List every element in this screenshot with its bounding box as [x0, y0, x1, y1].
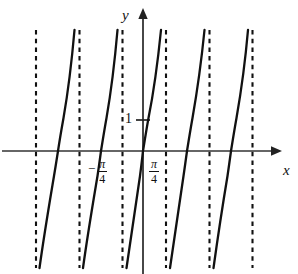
fraction-pi-over-4: π4: [97, 158, 107, 186]
y-axis-label: y: [122, 8, 129, 23]
curve-branch-1: [40, 30, 75, 268]
x-tick-label-negative-pi-over-4: −π4: [88, 158, 107, 186]
fraction-pi-over-4: π4: [149, 158, 159, 186]
minus-sign: −: [88, 162, 95, 175]
curve-branch-4: [170, 30, 205, 268]
fraction-denominator: 4: [149, 172, 159, 187]
curve-branch-5: [214, 30, 249, 268]
y-axis-arrowhead: [138, 8, 147, 19]
fraction-denominator: 4: [97, 172, 107, 187]
y-tick-label-one: 1: [125, 112, 132, 126]
x-tick-label-pi-over-4: π4: [149, 158, 159, 186]
y-axis: [138, 8, 147, 274]
fraction-numerator: π: [97, 158, 107, 172]
plot-canvas: [0, 0, 298, 274]
x-axis-arrowhead: [271, 146, 282, 155]
tangent-function-graph: y x 1 −π4 π4: [0, 0, 298, 274]
x-axis-label: x: [283, 163, 290, 178]
curve-branch-2: [83, 30, 118, 268]
fraction-numerator: π: [149, 158, 159, 172]
